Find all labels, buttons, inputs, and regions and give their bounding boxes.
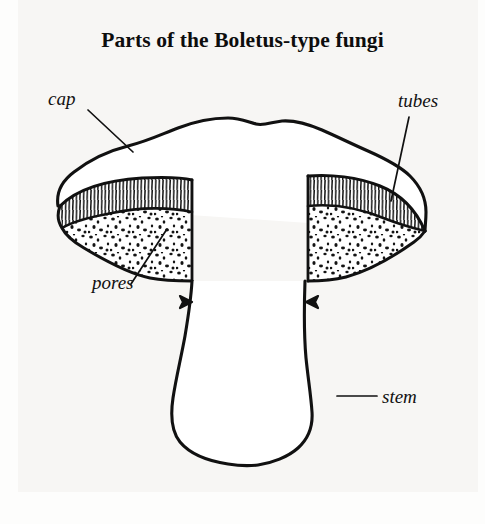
fungi-diagram-figure: Parts of the Boletus-type fungi [0,0,485,524]
stem-notch-right [306,296,318,308]
label-stem: stem [382,386,417,408]
label-tubes: tubes [398,90,438,112]
stem-shape [172,281,318,466]
fungus-line-drawing [0,0,485,524]
label-pores: pores [92,272,134,294]
cap-leader-line-icon [88,110,133,152]
label-cap: cap [48,88,75,110]
